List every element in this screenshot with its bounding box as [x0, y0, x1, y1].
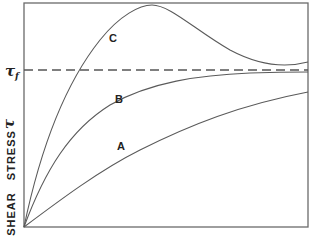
shear-stress-diagram: C B A τf τ SHEAR STRESS	[0, 0, 315, 239]
tau-f-label: τf	[5, 62, 21, 81]
tau-symbol: τ	[0, 118, 18, 129]
curve-c-label: C	[109, 32, 117, 44]
plot-frame	[24, 3, 308, 227]
curve-c	[24, 5, 308, 227]
curve-b-label: B	[115, 93, 123, 105]
y-axis-label: SHEAR STRESS	[5, 130, 17, 236]
curve-a-label: A	[117, 140, 125, 152]
curve-a	[24, 92, 308, 227]
